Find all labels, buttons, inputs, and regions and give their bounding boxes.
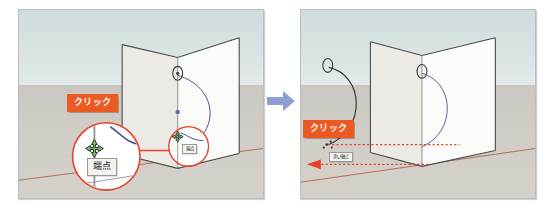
scene-vector-left	[19, 10, 263, 198]
red-axis-tooltip: 赤い軸上	[329, 152, 353, 162]
click-tag-right: クリック	[303, 120, 354, 138]
transition-arrow	[266, 88, 296, 114]
viewport-panel-before: クリック 端点 端点	[18, 9, 264, 199]
figure-stage: クリック 端点 端点	[0, 0, 553, 218]
right-arrow-icon	[266, 88, 296, 114]
box-face-left-right	[370, 42, 422, 167]
click-tag-left: クリック	[67, 94, 118, 112]
arc-endpoint-dot	[176, 72, 179, 75]
endpoint-tooltip-large: 端点	[87, 158, 117, 176]
dragged-arc-endpoint-ellipse	[323, 58, 333, 72]
endpoint-tooltip-small: 端点	[182, 144, 197, 154]
red-axis-arrowhead	[307, 159, 321, 169]
pencil-dot-cursor	[323, 141, 333, 149]
box-face-right-right	[422, 38, 495, 167]
viewport-panel-after: クリック 赤い軸上	[300, 9, 536, 199]
edge-midpoint-dot	[176, 110, 180, 114]
scene-vector-right	[301, 10, 535, 198]
